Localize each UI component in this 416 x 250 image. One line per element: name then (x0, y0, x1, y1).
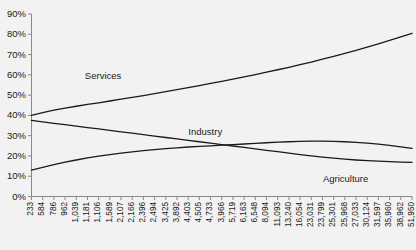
y-axis-tick-label: 20% (0, 151, 26, 161)
x-axis-tick-label: 35,960 (385, 202, 393, 227)
x-axis-tick-label: 4,733 (206, 202, 214, 223)
x-axis-tick-label: 2,494 (150, 202, 158, 223)
x-axis-tick-label: 1,039 (72, 202, 80, 223)
x-axis-tick-label: 51,950 (408, 202, 416, 227)
x-axis-tick-label: 2,166 (128, 202, 136, 223)
y-axis-tick-label: 90% (0, 9, 26, 19)
x-axis-tick-label: 3,892 (173, 202, 181, 223)
x-axis-tick-label: 8,094 (262, 202, 270, 223)
x-axis-tick-label: 3,966 (218, 202, 226, 223)
chart-axes (32, 14, 413, 197)
y-axis-tick-label: 10% (0, 171, 26, 181)
x-axis-tick-label: 786 (50, 202, 58, 216)
y-axis-tick-label: 0% (0, 192, 26, 202)
x-axis-tick-label: 11,093 (274, 202, 282, 226)
x-axis-tick-label: 4,505 (195, 202, 203, 223)
x-axis-tick-label: 4,403 (184, 202, 192, 223)
x-axis-tick-label: 1,181 (83, 202, 91, 223)
x-axis-tick-label: 6,548 (251, 202, 259, 223)
series-label-industry: Industry (188, 126, 222, 137)
x-axis-tick-label: 25,968 (341, 202, 349, 227)
x-axis-tick-label: 38,962 (397, 202, 405, 227)
series-lines (32, 33, 413, 170)
x-axis-tick-label: 2,107 (117, 202, 125, 223)
series-label-agriculture: Agriculture (323, 173, 368, 184)
x-axis-tick-label: 1,106 (94, 202, 102, 223)
x-axis-tick-label: 2,396 (139, 202, 147, 223)
y-axis-tick-label: 30% (0, 131, 26, 141)
x-axis-tick-label: 31,597 (374, 202, 382, 227)
series-line-agriculture (32, 141, 413, 170)
x-axis-tick-label: 13,240 (285, 202, 293, 227)
x-tick-marks (32, 197, 413, 201)
x-axis-tick-label: 962 (61, 202, 69, 216)
y-axis-tick-label: 60% (0, 70, 26, 80)
x-axis-tick-label: 27,033 (352, 202, 360, 227)
x-axis-tick-label: 30,124 (363, 202, 371, 227)
y-tick-marks (28, 14, 32, 197)
y-axis-tick-label: 50% (0, 90, 26, 100)
x-axis-tick-label: 233 (27, 202, 35, 216)
y-axis-tick-label: 40% (0, 110, 26, 120)
series-label-services: Services (85, 70, 121, 81)
x-axis-tick-label: 23,799 (318, 202, 326, 227)
y-axis-tick-label: 70% (0, 50, 26, 60)
x-axis-tick-label: 1,589 (106, 202, 114, 223)
x-axis-tick-label: 25,301 (329, 202, 337, 227)
x-axis-tick-label: 6,163 (240, 202, 248, 223)
x-axis-tick-label: 5,719 (229, 202, 237, 223)
x-axis-tick-label: 16,054 (296, 202, 304, 227)
x-axis-tick-label: 3,425 (162, 202, 170, 223)
y-axis-tick-label: 80% (0, 29, 26, 39)
x-axis-tick-label: 23,031 (307, 202, 315, 227)
x-axis-tick-label: 584 (38, 202, 46, 216)
